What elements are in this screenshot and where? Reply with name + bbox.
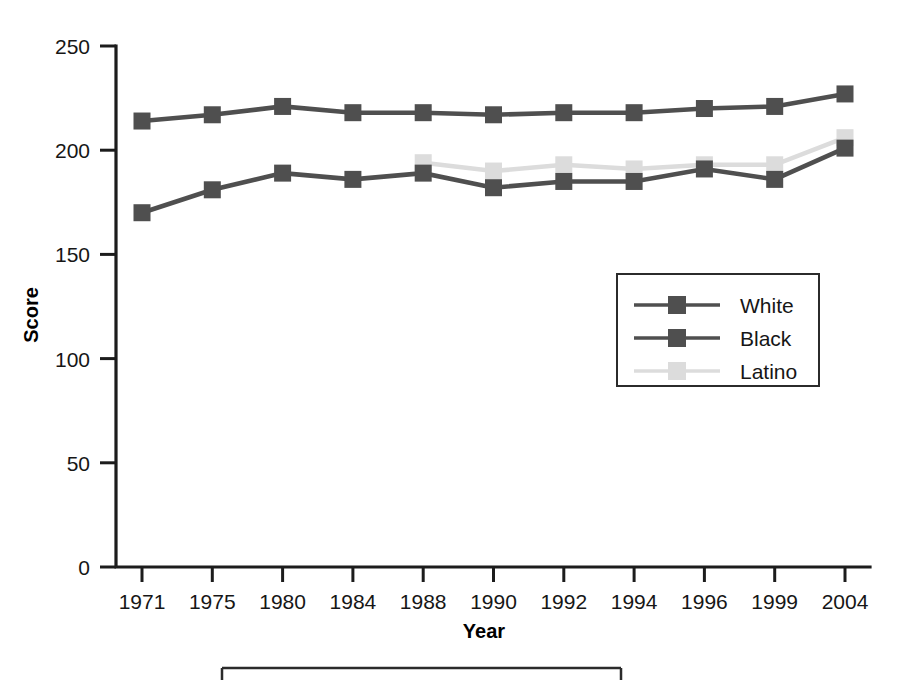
data-point-marker <box>766 171 783 188</box>
y-axis-title-text: Score <box>20 287 42 343</box>
data-point-marker <box>204 181 221 198</box>
legend-label: White <box>740 294 794 317</box>
y-tick-label: 250 <box>55 35 90 58</box>
y-axis-tick-labels: 050100150200250 <box>55 35 90 579</box>
data-point-marker <box>344 104 361 121</box>
data-series-layer <box>134 85 854 221</box>
data-point-marker <box>766 156 783 173</box>
legend-marker-swatch <box>668 329 686 347</box>
y-axis-ticks <box>100 46 116 567</box>
data-point-marker <box>696 100 713 117</box>
x-tick-label: 1990 <box>470 590 517 613</box>
y-tick-label: 150 <box>55 243 90 266</box>
legend-label: Black <box>740 327 792 350</box>
legend-marker-swatch <box>668 362 686 380</box>
cropped-caption-box <box>222 668 621 680</box>
chart-figure: Score Year 050100150200250 1971197519801… <box>0 0 898 680</box>
y-tick-label: 50 <box>67 452 90 475</box>
y-axis-title: Score <box>20 287 42 343</box>
data-point-marker <box>274 165 291 182</box>
data-point-marker <box>555 156 572 173</box>
x-tick-label: 1988 <box>400 590 447 613</box>
data-point-marker <box>766 98 783 115</box>
x-tick-label: 2004 <box>822 590 869 613</box>
data-point-marker <box>626 173 643 190</box>
y-tick-label: 100 <box>55 348 90 371</box>
legend-marker-swatch <box>668 296 686 314</box>
data-point-marker <box>415 104 432 121</box>
x-tick-label: 1996 <box>681 590 728 613</box>
data-point-marker <box>555 104 572 121</box>
data-point-marker <box>134 204 151 221</box>
data-point-marker <box>134 113 151 130</box>
data-point-marker <box>344 171 361 188</box>
data-point-marker <box>837 140 854 157</box>
data-point-marker <box>485 106 502 123</box>
legend-label: Latino <box>740 360 797 383</box>
x-tick-label: 1975 <box>189 590 236 613</box>
data-point-marker <box>837 85 854 102</box>
data-point-marker <box>204 106 221 123</box>
x-tick-label: 1999 <box>751 590 798 613</box>
data-point-marker <box>274 98 291 115</box>
x-tick-label: 1994 <box>611 590 658 613</box>
data-point-marker <box>696 160 713 177</box>
line-chart-canvas: Score Year 050100150200250 1971197519801… <box>0 0 898 680</box>
x-tick-label: 1984 <box>330 590 377 613</box>
series-white <box>134 85 854 129</box>
y-tick-label: 200 <box>55 139 90 162</box>
data-point-marker <box>555 173 572 190</box>
x-axis-title-text: Year <box>463 620 505 642</box>
x-tick-label: 1980 <box>259 590 306 613</box>
y-tick-label: 0 <box>78 556 90 579</box>
chart-legend: WhiteBlackLatino <box>617 274 819 386</box>
data-point-marker <box>626 104 643 121</box>
series-black <box>134 140 854 222</box>
data-point-marker <box>485 163 502 180</box>
data-point-marker <box>485 179 502 196</box>
x-axis-ticks <box>142 567 845 582</box>
x-tick-label: 1971 <box>119 590 166 613</box>
data-point-marker <box>415 165 432 182</box>
x-tick-label: 1992 <box>540 590 587 613</box>
x-axis-tick-labels: 1971197519801984198819901992199419961999… <box>119 590 869 613</box>
